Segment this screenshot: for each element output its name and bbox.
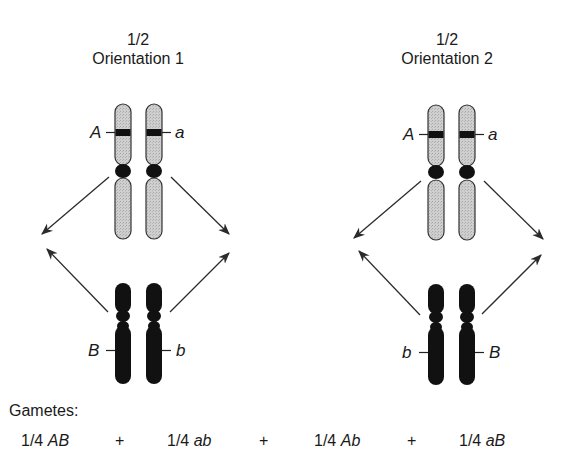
meiosis-diagram — [0, 0, 568, 474]
gamete-ab: 1/4 ab — [167, 432, 212, 450]
arrow-top-left — [354, 181, 421, 238]
dark-chromosome-right — [459, 284, 484, 385]
arrow-bottom-left — [359, 251, 420, 315]
arrow-bottom-right — [482, 255, 541, 314]
gamete-fraction: 1/4 — [167, 432, 189, 449]
allele-label-b: b — [402, 344, 411, 362]
gamete-genotype: AB — [48, 432, 69, 449]
arrow-top-right — [484, 181, 543, 239]
allele-label-a: a — [488, 126, 497, 144]
band-a — [460, 131, 475, 138]
dark-chromosome-left — [106, 283, 131, 384]
gamete-AB: 1/4 AB — [21, 432, 69, 450]
orientation-1-group — [42, 104, 229, 384]
arrow-bottom-right — [170, 253, 229, 312]
plus-sign: + — [259, 432, 268, 450]
gamete-genotype: aB — [486, 432, 506, 449]
gamete-aB: 1/4 aB — [459, 432, 505, 450]
allele-label-A: A — [90, 124, 101, 142]
allele-label-b: b — [176, 342, 185, 360]
light-chromosome-left — [419, 105, 444, 240]
allele-label-a: a — [175, 124, 184, 142]
light-chromosome-left — [106, 104, 131, 239]
light-chromosome-right — [459, 105, 484, 240]
allele-label-A: A — [403, 126, 414, 144]
gamete-genotype: Ab — [341, 432, 361, 449]
arrow-top-left — [42, 177, 109, 234]
band-A — [429, 131, 444, 138]
band-a — [147, 129, 162, 136]
light-chromosome-right — [146, 104, 171, 239]
gamete-fraction: 1/4 — [21, 432, 43, 449]
plus-sign: + — [407, 432, 416, 450]
gamete-fraction: 1/4 — [459, 432, 481, 449]
plus-sign: + — [115, 432, 124, 450]
allele-label-B: B — [88, 342, 99, 360]
dark-chromosome-right — [146, 283, 171, 384]
gamete-Ab: 1/4 Ab — [314, 432, 360, 450]
arrow-bottom-left — [47, 249, 108, 312]
gamete-fraction: 1/4 — [314, 432, 336, 449]
band-A — [116, 129, 131, 136]
orientation-2-group — [354, 105, 543, 385]
dark-chromosome-left — [419, 284, 444, 385]
arrow-top-right — [171, 177, 229, 234]
allele-label-B: B — [489, 344, 500, 362]
gametes-label: Gametes: — [9, 402, 78, 420]
gamete-genotype: ab — [194, 432, 212, 449]
